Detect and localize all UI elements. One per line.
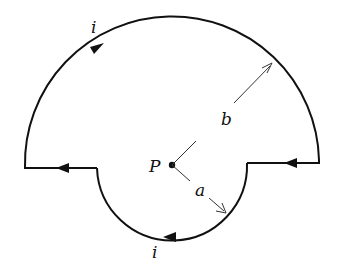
radius-b-arrowhead-icon	[262, 63, 272, 73]
right-connector	[247, 160, 319, 163]
arrow-top-arc-icon	[90, 43, 104, 54]
radius-a-line-upper	[172, 165, 190, 181]
label-current-bottom: i	[152, 242, 157, 262]
current-loop-diagram: i i P b a	[0, 0, 339, 273]
arrow-left-connector-icon	[56, 163, 69, 173]
label-current-top: i	[91, 17, 96, 37]
radius-b-line-upper	[234, 66, 270, 103]
label-point-p: P	[148, 156, 161, 176]
radius-a-line-lower	[209, 198, 224, 211]
label-radius-a: a	[195, 180, 205, 200]
arrow-right-connector-icon	[284, 158, 297, 168]
outer-arc	[25, 16, 319, 167]
radius-b-line-lower	[172, 141, 196, 165]
label-radius-b: b	[221, 109, 232, 129]
inner-arc	[97, 163, 247, 241]
